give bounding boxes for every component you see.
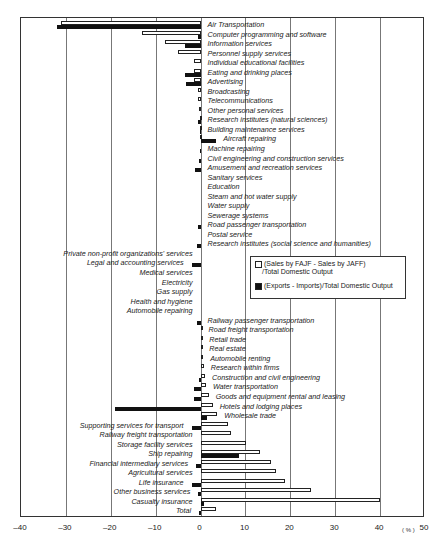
trade-balance-bar <box>115 407 200 411</box>
category-label: Steam and hot water supply <box>208 192 297 201</box>
category-label: Medical services <box>139 268 192 277</box>
x-tick-label: –30 <box>58 523 71 532</box>
sales-diff-bar <box>201 326 203 330</box>
category-label: Telecommunications <box>208 96 273 105</box>
trade-balance-bar <box>186 82 201 86</box>
trade-balance-bar <box>201 416 208 420</box>
trade-balance-bar <box>197 244 201 248</box>
trade-balance-bar <box>195 168 200 172</box>
category-label: Ship repairing <box>148 449 192 458</box>
legend: (Sales by FAJF - Sales by JAFF) /Total D… <box>250 256 406 299</box>
sales-diff-bar <box>201 374 205 378</box>
category-label: Electricity <box>162 278 193 287</box>
trade-balance-bar <box>196 464 200 468</box>
sales-diff-bar <box>201 403 213 407</box>
category-label: Real estate <box>209 344 245 353</box>
category-label: Road freight transportation <box>208 325 293 334</box>
sales-diff-bar <box>201 336 203 340</box>
category-label: Supporting services for transport <box>80 421 184 430</box>
trade-balance-bar <box>197 321 201 325</box>
sales-diff-bar <box>201 355 204 359</box>
trade-balance-bar <box>194 387 201 391</box>
x-tick-label: –20 <box>103 523 116 532</box>
x-tick-label: 40 <box>375 523 384 532</box>
legend-white-label: (Sales by FAJF - Sales by JAFF) <box>264 260 366 267</box>
category-label: Storage facility services <box>117 440 193 449</box>
category-label: Civil engineering and construction servi… <box>208 154 344 163</box>
category-label: Building maintenance services <box>208 125 305 134</box>
sales-diff-bar <box>201 383 206 387</box>
x-tick-label: 30 <box>330 523 339 532</box>
sales-diff-bar <box>194 59 201 63</box>
trade-balance-bar <box>200 149 202 153</box>
trade-balance-bar <box>185 44 201 48</box>
category-label: Postal service <box>208 230 253 239</box>
category-label: Agricultural services <box>128 468 192 477</box>
category-label: Casualty insurance <box>131 497 192 506</box>
trade-balance-bar <box>192 483 201 487</box>
sales-diff-bar <box>178 50 200 54</box>
category-label: Private non-profit organizations' servic… <box>63 249 192 258</box>
category-label: Computer programming and software <box>208 30 327 39</box>
sales-diff-bar <box>201 488 311 492</box>
white-square-icon <box>255 261 262 268</box>
legend-white-label-2: /Total Domestic Output <box>255 268 401 276</box>
category-label: Personnel supply services <box>208 49 292 58</box>
sales-diff-bar <box>201 441 247 445</box>
category-label: Air Transportation <box>208 20 265 29</box>
x-tick-label: 10 <box>240 523 249 532</box>
category-label: Sanitary services <box>208 173 263 182</box>
category-label: Legal and accounting services <box>87 258 184 267</box>
sales-diff-bar <box>201 431 231 435</box>
category-label: Life insurance <box>139 478 184 487</box>
category-label: Water transportation <box>213 382 278 391</box>
x-tick-label: –40 <box>13 523 26 532</box>
trade-balance-bar <box>200 130 202 134</box>
sales-diff-bar <box>201 364 204 368</box>
category-label: Broadcasting <box>208 87 250 96</box>
category-label: Information services <box>208 39 272 48</box>
category-label: Education <box>208 182 240 191</box>
trade-balance-bar <box>201 139 217 143</box>
sales-diff-bar <box>201 479 285 483</box>
category-label: Total <box>176 506 191 515</box>
trade-balance-bar <box>198 492 200 496</box>
category-label: Research institutes (natural sciences) <box>208 115 328 124</box>
category-label: Construction and civil engineering <box>212 373 320 382</box>
sales-diff-bar <box>142 31 200 35</box>
x-tick-label: 0 <box>197 523 201 532</box>
category-label: Wholesale trade <box>224 411 276 420</box>
category-label: Railway passenger transportation <box>208 316 315 325</box>
category-label: Gas supply <box>157 287 193 296</box>
category-label: Machine repairing <box>208 144 265 153</box>
category-label: Water supply <box>208 201 250 210</box>
category-label: Automobile repairing <box>127 306 193 315</box>
unit-label: ( % ) <box>402 527 415 533</box>
trade-balance-bar <box>198 120 200 124</box>
sales-diff-bar <box>201 422 229 426</box>
sales-diff-bar <box>201 507 217 511</box>
category-label: Railway freight transportation <box>99 430 192 439</box>
category-label: Advertising <box>208 77 244 86</box>
trade-balance-bar <box>201 502 204 506</box>
category-label: Financial intermediary services <box>89 459 188 468</box>
trade-balance-bar <box>192 426 201 430</box>
category-label: Retail trade <box>209 335 246 344</box>
category-label: Sewerage systems <box>208 211 269 220</box>
trade-balance-bar <box>199 159 201 163</box>
category-label: Amusement and recreation services <box>208 163 323 172</box>
category-label: Individual educational facilities <box>208 58 305 67</box>
sales-diff-bar <box>201 469 276 473</box>
category-label: Research institutes (social science and … <box>208 239 371 248</box>
category-label: Eating and drinking places <box>208 68 292 77</box>
trade-balance-bar <box>198 35 200 39</box>
trade-balance-bar <box>199 378 201 382</box>
category-label: Goods and equipment rental and leasing <box>216 392 345 401</box>
category-label: Automobile renting <box>210 354 270 363</box>
legend-black-label: (Exports - Imports)/Total Domestic Outpu… <box>264 282 393 289</box>
black-square-icon <box>255 283 262 290</box>
x-tick-label: 20 <box>285 523 294 532</box>
x-tick-label: –10 <box>148 523 161 532</box>
sales-diff-bar <box>201 393 209 397</box>
sales-diff-bar <box>201 345 203 349</box>
